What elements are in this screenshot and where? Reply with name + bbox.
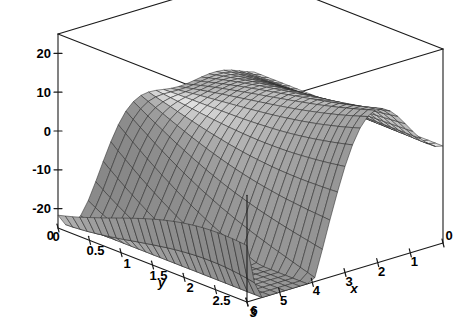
svg-text:0.5: 0.5 — [86, 243, 104, 258]
plot-canvas: 20100-10-20000.511.522.53y6543210x — [0, 0, 465, 324]
svg-text:2: 2 — [186, 280, 193, 295]
svg-text:20: 20 — [37, 46, 51, 61]
svg-text:x: x — [349, 281, 358, 296]
svg-text:2: 2 — [378, 264, 385, 279]
svg-text:1: 1 — [123, 256, 130, 271]
svg-text:0: 0 — [44, 124, 51, 139]
svg-text:10: 10 — [37, 85, 51, 100]
svg-text:6: 6 — [250, 303, 257, 318]
svg-text:y: y — [157, 275, 166, 290]
svg-text:0: 0 — [445, 228, 452, 243]
svg-text:2.5: 2.5 — [212, 293, 230, 308]
surface-plot-figure: 20100-10-20000.511.522.53y6543210x — [0, 0, 465, 324]
svg-text:-20: -20 — [32, 201, 51, 216]
svg-text:1: 1 — [411, 254, 418, 269]
svg-text:5: 5 — [280, 293, 287, 308]
svg-text:0: 0 — [52, 229, 59, 244]
svg-text:-10: -10 — [32, 162, 51, 177]
svg-text:4: 4 — [313, 283, 321, 298]
